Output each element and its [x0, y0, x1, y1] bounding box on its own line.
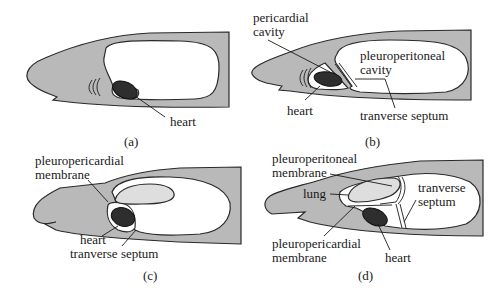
label-transverse-septum-line2: septum [418, 194, 456, 209]
label-pleuroperitoneal-membrane-line2: membrane [272, 165, 327, 180]
body-cavity-development-diagram: heart (a) pericardial cavity pleuroperit… [0, 0, 503, 293]
label-heart-a: heart [170, 114, 196, 129]
label-heart-d: heart [385, 250, 411, 265]
panel-a: heart (a) [27, 32, 229, 149]
label-heart-c: heart [80, 232, 106, 247]
label-pleuropericardial-membrane-line1: pleuropericardial [35, 153, 124, 168]
label-pleuropericardial-membrane-line2: membrane [35, 167, 90, 182]
label-lung-d: lung [303, 186, 327, 201]
panel-d: pleuroperitoneal membrane lung tranverse… [265, 151, 483, 283]
label-heart-b: heart [287, 103, 313, 118]
label-pleuropericardial-membrane-line1: pleuropericardial [272, 236, 361, 251]
label-pericardial-cavity-line2: cavity [253, 24, 285, 39]
label-transverse-septum-c: tranverse septum [70, 246, 158, 261]
label-pleuroperitoneal-cavity-line2: cavity [360, 62, 392, 77]
label-pericardial-cavity-line1: pericardial [253, 10, 309, 25]
label-pleuroperitoneal-membrane-line1: pleuroperitoneal [272, 151, 358, 166]
panel-c: pleuropericardial membrane heart tranver… [33, 153, 241, 283]
caption-a: (a) [124, 134, 138, 149]
caption-c: (c) [143, 268, 157, 283]
label-transverse-septum-line1: tranverse [418, 180, 466, 195]
panel-b: pericardial cavity pleuroperitoneal cavi… [252, 10, 471, 149]
label-transverse-septum-b: tranverse septum [360, 108, 448, 123]
caption-d: (d) [358, 268, 373, 283]
label-pleuropericardial-membrane-line2: membrane [272, 250, 327, 265]
label-pleuroperitoneal-cavity-line1: pleuroperitoneal [360, 48, 446, 63]
caption-b: (b) [365, 134, 380, 149]
